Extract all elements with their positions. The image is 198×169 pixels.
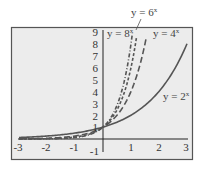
- y-tick-8: 8: [93, 38, 99, 50]
- label-8x: y = 8x: [107, 27, 134, 39]
- y-tick-7: 7: [93, 50, 99, 62]
- x-tick-2: 2: [156, 141, 162, 153]
- y-tick-1: 1: [93, 121, 99, 133]
- y-tick-neg1: -1: [90, 145, 99, 157]
- label-2x: y = 2x: [163, 90, 190, 102]
- x-tick-neg1: -1: [69, 141, 78, 153]
- label-4x: y = 4x: [153, 27, 180, 39]
- y-tick-6: 6: [93, 62, 99, 74]
- x-tick-neg3: -3: [13, 141, 23, 153]
- y-tick-9: 9: [93, 26, 99, 38]
- x-tick-3: 3: [183, 141, 189, 153]
- y-tick-4: 4: [93, 86, 99, 98]
- exponential-chart: 9 8 7 6 5 4 3 2 1 -1 -3 -2 -1 1 2 3 y = …: [0, 0, 198, 169]
- y-tick-3: 3: [93, 98, 99, 110]
- label-6x: y = 6x: [131, 6, 158, 18]
- x-tick-neg2: -2: [41, 141, 50, 153]
- y-tick-5: 5: [93, 74, 99, 86]
- x-tick-1: 1: [128, 141, 134, 153]
